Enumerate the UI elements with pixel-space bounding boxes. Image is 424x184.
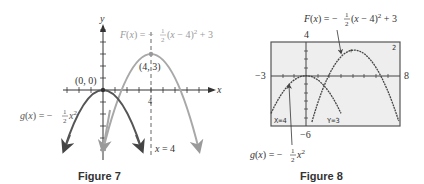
figure-7: y x 4 (0, 0) (4, 3) x = 4 F(x) = − 1 2 (…	[20, 13, 222, 182]
vertex-g-label: (0, 0)	[75, 75, 97, 87]
tick-label-4: 4	[148, 97, 152, 106]
svg-text:1: 1	[63, 108, 67, 116]
vertex-F-label: (4, 3)	[139, 61, 161, 73]
svg-text:2: 2	[345, 20, 349, 28]
symmetry-label: x = 4	[154, 143, 175, 154]
svg-text:(x − 4)2 + 3: (x − 4)2 + 3	[351, 12, 397, 25]
ymax-label: 4	[304, 29, 309, 40]
cursor-y-value: Y=3	[327, 117, 340, 125]
fig8-label-F: F(x) = −	[303, 13, 338, 25]
label-g: g(x) = −	[20, 110, 53, 122]
figure-8: + 2 X=4 Y=3 −3 8 4 −6 F(x) = − 1 2 (x − …	[250, 11, 409, 182]
x-axis-label: x	[216, 84, 222, 95]
label-F: F(x) = −	[119, 29, 154, 41]
trace-cursor: +	[349, 47, 353, 55]
xmin-label: −3	[255, 70, 266, 81]
fig8-label-g: g(x) = −	[250, 149, 283, 161]
svg-text:2: 2	[63, 117, 67, 125]
vertex-g-point	[101, 88, 105, 92]
svg-text:2: 2	[291, 156, 295, 164]
svg-text:2: 2	[161, 36, 165, 44]
xmax-label: 8	[404, 70, 409, 81]
svg-text:1: 1	[161, 27, 165, 35]
svg-text:1: 1	[345, 11, 349, 19]
vertex-F-point	[149, 52, 153, 56]
cursor-x-value: X=4	[274, 117, 287, 125]
figure-7-caption: Figure 7	[78, 170, 121, 182]
y-axis-label: y	[99, 13, 105, 24]
screen-corner-indicator: 2	[392, 44, 396, 52]
figure-8-caption: Figure 8	[300, 170, 343, 182]
svg-text:x2: x2	[296, 148, 305, 160]
figures-canvas: y x 4 (0, 0) (4, 3) x = 4 F(x) = − 1 2 (…	[0, 0, 424, 184]
svg-text:1: 1	[291, 147, 295, 155]
svg-text:(x − 4)2 + 3: (x − 4)2 + 3	[167, 28, 213, 41]
ymin-label: −6	[300, 129, 311, 140]
